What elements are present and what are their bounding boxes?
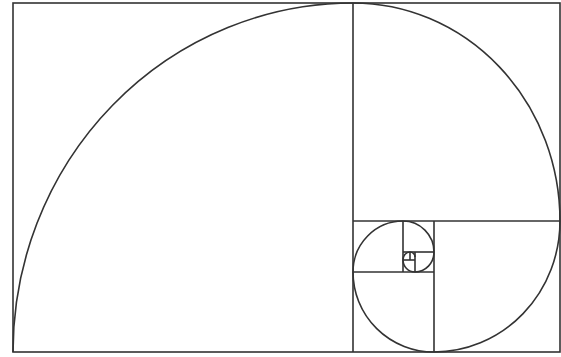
golden-spiral-diagram (0, 0, 561, 357)
square-divisions (353, 3, 560, 352)
golden-spiral-curve (13, 3, 560, 352)
outer-frame (13, 3, 560, 352)
